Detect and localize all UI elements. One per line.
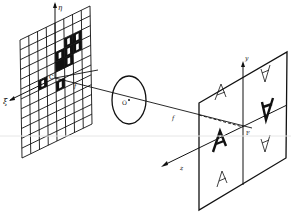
letter-a-inverted-bottom-right [261,135,270,152]
optical-axis-line [55,78,252,128]
focus-f-label: F [246,130,250,136]
origin-c-label: C [49,73,54,80]
lens-center-label: O [122,99,127,106]
optics-diagram: η ξ C f O f y z F [0,0,291,217]
diagram-canvas: η ξ C f O f y z F [0,0,291,217]
z-axis-label: z [179,164,184,171]
lens-center-dot [128,99,130,101]
letter-a-bottom-left [217,171,227,187]
xi-axis [10,78,55,100]
letter-a-inverted-top-right [261,65,270,82]
letter-a-top-left [215,84,226,100]
letter-a-bold-left [213,131,226,152]
eta-label: η [58,4,63,12]
z-arrow-icon [161,161,168,167]
y-axis-label: y [244,54,249,62]
focal-length-right-label: f [171,114,176,122]
xi-arrow-icon [9,96,15,101]
y-arrow-icon [241,61,245,67]
optical-axis-dashed [199,115,243,127]
xi-label: ξ [3,97,8,106]
eta-arrow-icon [53,2,57,8]
